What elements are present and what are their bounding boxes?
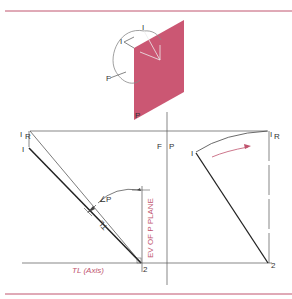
pictorial-label-1r: I: [142, 23, 144, 32]
axis-label: TL (Axis): [72, 266, 104, 275]
rotation-arrow: [212, 147, 248, 157]
pictorial-label-1: I: [120, 37, 122, 46]
fold-label-f: F: [157, 142, 162, 151]
label-2-right: 2: [271, 261, 276, 270]
revolution-arc: [196, 131, 268, 152]
line-1-to-2: [29, 148, 141, 263]
right-view: I I R 2: [191, 130, 280, 270]
true-length-line: [30, 131, 141, 263]
left-view: I R I 2 ∠P TL EV OF P PLANE TL (Axis): [20, 130, 155, 275]
label-1r-sub: R: [25, 132, 31, 141]
line-1-to-2-right: [196, 153, 268, 263]
label-1r-right: I: [270, 130, 272, 139]
label-2: 2: [143, 265, 148, 274]
label-1-right: I: [191, 149, 193, 158]
pictorial-label-p: P: [135, 111, 140, 120]
label-1: I: [22, 145, 24, 154]
pictorial-label-f: F: [106, 74, 111, 83]
true-length-label: TL: [96, 218, 109, 231]
pictorial-plane-illustration: I I F P: [106, 20, 184, 120]
pink-plane: [134, 20, 184, 120]
ev-label: EV OF P PLANE: [146, 198, 155, 258]
angle-label: ∠P: [99, 195, 111, 204]
label-1r: I: [20, 130, 22, 139]
label-1r-sub-right: R: [274, 132, 280, 141]
fold-label-p: P: [169, 142, 174, 151]
revolution-diagram: I I F P F P I R I 2 ∠P TL EV OF P PLANE …: [0, 0, 292, 299]
